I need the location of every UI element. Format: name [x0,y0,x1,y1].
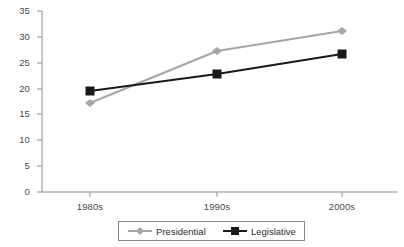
chart-legend: Presidential Legislative [118,221,305,241]
y-tick-label-0: 0 [8,186,30,197]
y-tick-label-35: 35 [8,5,30,16]
line-square-marker-icon [222,225,248,237]
series-presidential [85,27,347,107]
y-tick-label-20: 20 [8,83,30,94]
x-axis-ticks [90,192,342,197]
legend-label-legislative: Legislative [251,226,296,237]
y-tick-label-30: 30 [8,31,30,42]
series-legislative-marker [338,50,347,59]
legend-label-presidential: Presidential [156,226,206,237]
x-tick-label-1990s: 1990s [187,201,247,212]
series-presidential-marker [85,99,95,107]
y-tick-label-25: 25 [8,57,30,68]
y-tick-label-15: 15 [8,108,30,119]
y-tick-label-10: 10 [8,134,30,145]
legend-entry-presidential: Presidential [127,225,206,237]
legend-entry-legislative: Legislative [222,225,296,237]
series-legislative-marker [86,87,95,96]
series-legislative-marker [213,70,222,79]
x-tick-label-1980s: 1980s [60,201,120,212]
y-tick-label-5: 5 [8,160,30,171]
series-presidential-marker [212,47,222,55]
series-presidential-marker [337,27,347,35]
line-chart: 35 30 25 20 15 10 5 0 1980s 1990s 2000s … [0,0,404,247]
series-presidential-line [90,31,342,103]
x-tick-label-2000s: 2000s [312,201,372,212]
line-diamond-marker-icon [127,225,153,237]
y-axis-ticks [37,11,42,192]
